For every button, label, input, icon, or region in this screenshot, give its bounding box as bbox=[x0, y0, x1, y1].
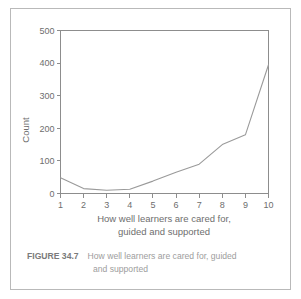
x-tick-label: 5 bbox=[150, 200, 155, 210]
count-data-line bbox=[61, 65, 269, 191]
x-tick-label: 7 bbox=[197, 200, 202, 210]
y-tick-label: 300 bbox=[39, 91, 54, 101]
x-axis-title-line-1: How well learners are cared for, bbox=[97, 213, 231, 224]
y-tick-label: 0 bbox=[49, 189, 54, 199]
y-axis-title: Count bbox=[20, 117, 31, 143]
y-tick-label: 500 bbox=[39, 26, 54, 36]
x-axis-tick-labels: 12345678910 bbox=[58, 200, 274, 210]
x-tick-label: 9 bbox=[243, 200, 248, 210]
x-tick-label: 6 bbox=[174, 200, 179, 210]
x-axis-ticks bbox=[61, 194, 269, 198]
y-axis-ticks bbox=[57, 31, 61, 194]
x-tick-label: 2 bbox=[81, 200, 86, 210]
figure-caption: FIGURE 34.7How well learners are cared f… bbox=[27, 250, 275, 275]
x-axis-title-line-2: guided and supported bbox=[118, 226, 210, 237]
y-tick-label: 400 bbox=[39, 58, 54, 68]
caption-text-line-1: How well learners are cared for, guided bbox=[88, 251, 237, 261]
caption-first-row: FIGURE 34.7How well learners are cared f… bbox=[27, 250, 275, 263]
y-axis-tick-labels: 0100200300400500 bbox=[39, 26, 54, 199]
plot-frame-box bbox=[61, 31, 269, 194]
figure-container: 0100200300400500 12345678910 Count How w… bbox=[0, 0, 301, 299]
x-tick-label: 3 bbox=[104, 200, 109, 210]
x-tick-label: 1 bbox=[58, 200, 63, 210]
x-tick-label: 4 bbox=[127, 200, 132, 210]
figure-number-label: FIGURE 34.7 bbox=[27, 251, 79, 261]
x-tick-label: 8 bbox=[220, 200, 225, 210]
y-tick-label: 200 bbox=[39, 124, 54, 134]
y-tick-label: 100 bbox=[39, 156, 54, 166]
x-tick-label: 10 bbox=[263, 200, 273, 210]
caption-second-row: and supported bbox=[27, 263, 275, 276]
